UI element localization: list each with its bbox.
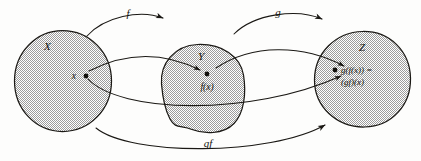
set-region-X bbox=[15, 31, 112, 132]
arrow-label-f: f bbox=[126, 7, 131, 19]
arrow-label-g: g bbox=[275, 6, 281, 18]
point-label-gfx-line1: g(f(x)) = bbox=[341, 65, 372, 75]
point-label-gfx-line2: (gf)(x) bbox=[341, 77, 364, 87]
point-label-fx: f(x) bbox=[200, 82, 213, 93]
set-label-Z: Z bbox=[359, 41, 366, 53]
arrow-label-gf: gf bbox=[204, 137, 215, 149]
function-composition-diagram: X Y Z f g gf bbox=[0, 0, 421, 161]
point-label-x: x bbox=[71, 71, 77, 81]
arrow-f: f bbox=[87, 7, 163, 36]
arrow-g: g bbox=[234, 6, 322, 34]
diagram-canvas: X Y Z f g gf bbox=[0, 0, 421, 161]
set-label-X: X bbox=[43, 40, 52, 52]
